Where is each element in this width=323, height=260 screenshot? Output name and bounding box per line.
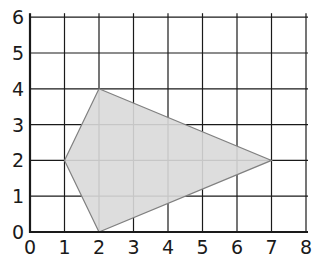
coordinate-grid: 012345678 0123456 [0, 0, 323, 260]
x-tick-label: 8 [300, 236, 312, 258]
y-tick-label: 5 [12, 42, 24, 64]
y-tick-label: 6 [12, 6, 24, 28]
x-tick-label: 2 [93, 236, 105, 258]
y-tick-label: 0 [12, 221, 24, 243]
x-axis-labels: 012345678 [24, 236, 312, 258]
x-tick-label: 0 [24, 236, 36, 258]
x-tick-label: 1 [58, 236, 70, 258]
x-tick-label: 4 [162, 236, 174, 258]
y-tick-label: 3 [12, 114, 24, 136]
y-tick-label: 4 [12, 78, 24, 100]
x-tick-label: 7 [265, 236, 277, 258]
x-tick-label: 3 [127, 236, 139, 258]
x-tick-label: 5 [196, 236, 208, 258]
y-axis-labels: 0123456 [12, 6, 24, 243]
y-tick-label: 1 [12, 185, 24, 207]
x-tick-label: 6 [231, 236, 243, 258]
y-tick-label: 2 [12, 149, 24, 171]
